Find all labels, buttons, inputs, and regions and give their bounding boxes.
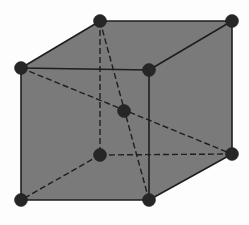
atom-bottom-back-left: [94, 149, 107, 162]
atom-body-center: [118, 105, 131, 118]
cube-drawing: [0, 0, 249, 225]
atom-top-front-left: [15, 62, 28, 75]
atom-top-back-right: [226, 15, 239, 28]
atom-bottom-front-left: [15, 194, 28, 207]
atom-top-back-left: [94, 15, 107, 28]
atom-bottom-back-right: [226, 148, 239, 161]
hidden-edge-line: [100, 154, 232, 155]
atom-top-front-right: [143, 64, 156, 77]
atom-bottom-front-right: [143, 194, 156, 207]
bcc-unit-cell-diagram: [0, 0, 249, 225]
